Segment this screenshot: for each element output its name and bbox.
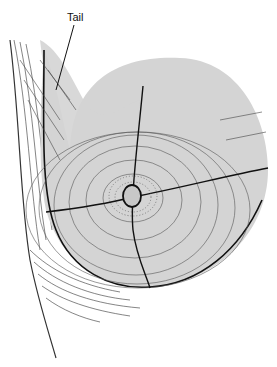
diagram-canvas bbox=[0, 0, 277, 367]
label-tail: Tail bbox=[67, 11, 84, 23]
nipple bbox=[123, 185, 141, 207]
breast-quadrant-diagram: Tail bbox=[0, 0, 277, 367]
